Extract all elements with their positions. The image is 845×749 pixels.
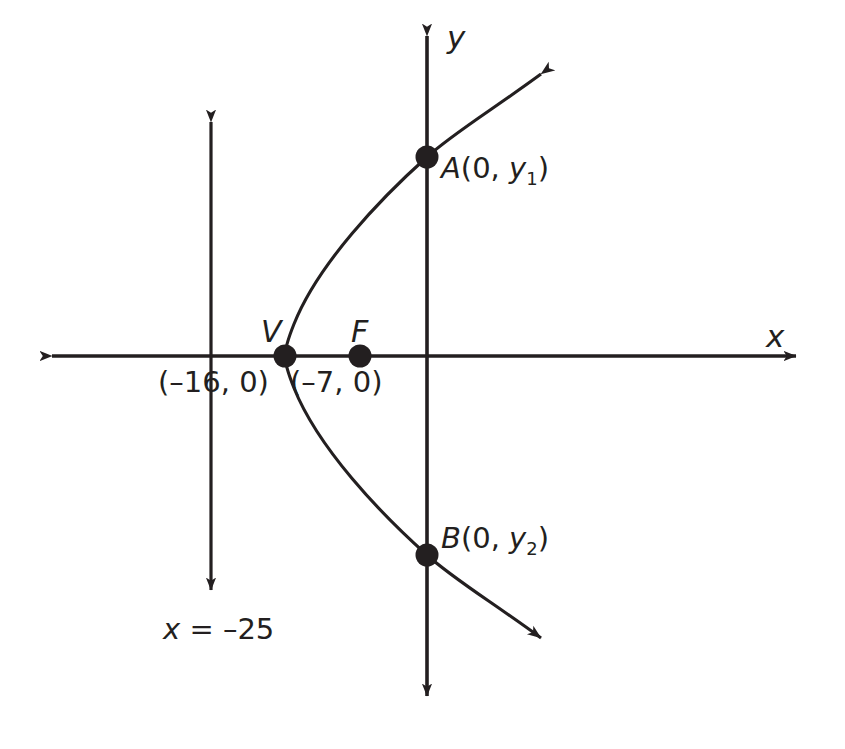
focus-coordinate-label: (–7, 0)	[290, 368, 382, 397]
directrix-equation-operator: =	[189, 612, 213, 646]
directrix-equation-relation	[180, 612, 189, 646]
point-b-coord-prefix: (0,	[461, 521, 509, 555]
point-a-marker	[416, 146, 439, 169]
point-a-name: A	[441, 151, 461, 185]
point-b-coord-subscript: 2	[526, 538, 537, 559]
point-b-marker	[416, 544, 439, 567]
x-axis-label: x	[766, 321, 784, 352]
directrix-equation-lhs: x	[163, 612, 180, 646]
directrix-equation-label: x = –25	[163, 615, 274, 644]
vertex-coordinate-label: (–16, 0)	[158, 368, 269, 397]
point-a-coord-prefix: (0,	[461, 151, 509, 185]
y-axis-label: y	[447, 22, 465, 53]
point-b-label: B(0, y2)	[441, 524, 549, 558]
point-b-coord-var: y	[509, 521, 526, 555]
point-b-coord-suffix: )	[538, 521, 549, 555]
point-b-name: B	[441, 521, 461, 555]
directrix-equation-rhs: –25	[223, 612, 274, 646]
point-a-coord-var: y	[509, 151, 526, 185]
point-a-coord-suffix: )	[538, 151, 549, 185]
vertex-point-label: V	[261, 317, 282, 347]
point-a-coord-subscript: 1	[526, 168, 537, 189]
focus-point-label: F	[351, 317, 368, 347]
point-a-label: A(0, y1)	[441, 154, 549, 188]
parabola-figure	[0, 0, 845, 749]
diagram-canvas: y x V (–16, 0) F (–7, 0) A(0, y1) B(0, y…	[0, 0, 845, 749]
